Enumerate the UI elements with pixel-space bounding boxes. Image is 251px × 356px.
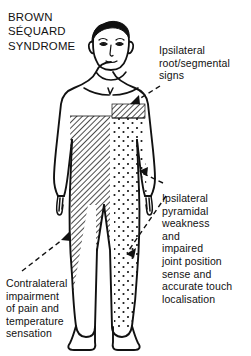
- annotation-root-segmental: Ipsilateral root/segmental signs: [159, 44, 230, 82]
- hair: [92, 21, 129, 41]
- annotation-pyramidal: Ipsilateral pyramidal weakness and impai…: [162, 192, 232, 305]
- feet: [68, 326, 139, 350]
- leader-contralateral: [22, 240, 62, 271]
- face-features: [99, 39, 124, 63]
- hatched-band-shoulder: [112, 104, 145, 118]
- annotation-contralateral: Contralateral impairment of pain and tem…: [6, 277, 67, 340]
- neck-clavicles: [84, 72, 138, 95]
- diagram-canvas: BROWN SÉQUARD SYNDROME Ipsilateral root/…: [0, 0, 251, 356]
- page-title: BROWN SÉQUARD SYNDROME: [8, 10, 75, 53]
